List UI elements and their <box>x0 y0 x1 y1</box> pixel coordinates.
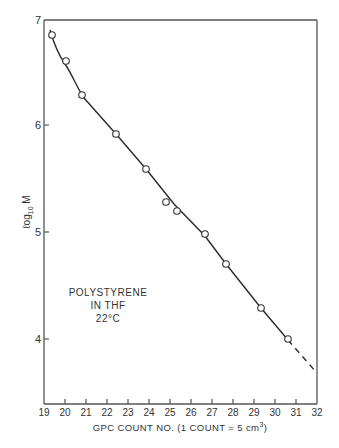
x-tick-label: 24 <box>143 407 155 418</box>
x-tick-label: 21 <box>80 407 92 418</box>
data-point-marker <box>258 305 265 312</box>
y-tick-label: 7 <box>35 14 41 26</box>
data-point-marker <box>223 261 230 268</box>
x-tick-label: 32 <box>311 407 323 418</box>
x-tick-label: 23 <box>122 407 134 418</box>
x-tick-label: 22 <box>101 407 113 418</box>
data-point-marker <box>113 131 120 138</box>
data-point-marker <box>174 208 181 215</box>
data-point-marker <box>63 58 70 65</box>
y-tick-labels: 7 6 5 4 <box>35 14 41 345</box>
y-tick-label: 6 <box>35 119 41 131</box>
x-tick-labels: 19 20 21 22 23 24 25 26 27 28 29 30 31 3… <box>38 407 323 418</box>
x-tick-label: 30 <box>269 407 281 418</box>
annotation-line-2: IN THF <box>90 300 125 311</box>
data-point-marker <box>49 32 56 39</box>
x-tick-label: 28 <box>227 407 239 418</box>
data-point-marker <box>79 92 86 99</box>
y-ticks <box>44 125 49 339</box>
x-tick-label: 31 <box>290 407 302 418</box>
x-axis-title: GPC COUNT NO. (1 COUNT = 5 cm3) <box>93 421 268 433</box>
annotation-line-1: POLYSTYRENE <box>69 287 148 298</box>
x-tick-label: 26 <box>185 407 197 418</box>
data-point-marker <box>163 199 170 206</box>
data-point-marker <box>143 166 150 173</box>
calibration-curve-extrapolation <box>288 340 316 372</box>
x-tick-label: 19 <box>38 407 50 418</box>
x-ticks <box>65 399 296 404</box>
data-point-marker <box>202 231 209 238</box>
data-point-marker <box>285 336 292 343</box>
x-tick-label: 27 <box>206 407 218 418</box>
annotation-line-3: 22°C <box>96 313 120 324</box>
y-axis-title: ℓog10 M <box>21 195 34 228</box>
x-tick-label: 25 <box>164 407 176 418</box>
y-tick-label: 4 <box>35 333 41 345</box>
y-tick-label: 5 <box>35 226 41 238</box>
x-tick-label: 29 <box>248 407 260 418</box>
chart-canvas: 19 20 21 22 23 24 25 26 27 28 29 30 31 3… <box>0 0 339 448</box>
x-tick-label: 20 <box>59 407 71 418</box>
chart-annotation: POLYSTYRENE IN THF 22°C <box>69 287 148 324</box>
